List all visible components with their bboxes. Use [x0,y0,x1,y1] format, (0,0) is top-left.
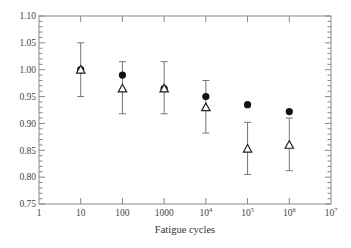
data-markers [77,66,294,153]
x-tick-label: 1 [37,208,42,218]
filled-circle-marker [202,93,209,100]
x-tick-label: 100 [115,208,130,218]
y-tick-label: 0.95 [19,92,36,102]
y-tick-label: 0.85 [19,146,36,156]
y-tick-label: 1.00 [19,65,36,75]
x-tick-label: 10 [76,208,86,218]
x-tick-label: 107 [325,206,339,218]
open-triangle-marker [118,84,126,92]
x-tick-label: 106 [283,206,297,218]
x-axis-title: Fatigue cycles [155,224,215,235]
open-triangle-marker [243,144,251,152]
open-triangle-marker [285,141,293,149]
fatigue-chart: 0.750.800.850.900.951.001.051.1011010010… [0,0,351,248]
x-tick-label: 104 [199,206,213,218]
y-tick-label: 0.75 [19,199,36,209]
y-tick-label: 1.05 [19,38,36,48]
x-tick-label: 1000 [155,208,174,218]
x-tick-label: 105 [241,206,254,218]
filled-circle-marker [119,71,126,78]
error-bars [77,43,293,175]
y-tick-label: 1.10 [19,11,36,21]
y-tick-label: 0.90 [19,119,36,129]
y-tick-label: 0.80 [19,172,36,182]
filled-circle-marker [286,108,293,115]
open-triangle-marker [202,103,210,111]
filled-circle-marker [244,101,251,108]
